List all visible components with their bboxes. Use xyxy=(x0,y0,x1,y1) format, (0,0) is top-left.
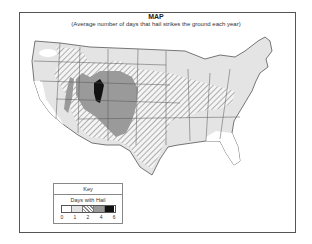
swatch-0-days xyxy=(62,206,73,212)
swatch-1-day xyxy=(72,206,83,212)
swatch-4-days xyxy=(94,206,105,212)
legend-subtitle: Days with Hail xyxy=(54,197,122,203)
tick-label: 1 xyxy=(74,214,77,220)
tick-label: 6 xyxy=(113,214,116,220)
swatch-6-days xyxy=(105,206,115,212)
tick-label: 0 xyxy=(61,214,64,220)
swatch-2-days xyxy=(83,206,94,212)
map-title: MAP xyxy=(0,13,312,20)
us-hail-map xyxy=(20,29,292,189)
legend-swatches xyxy=(61,205,116,213)
legend-title: Key xyxy=(54,184,122,195)
tick-label: 4 xyxy=(100,214,103,220)
legend-key: Key Days with Hail 0 1 2 4 6 xyxy=(53,183,123,224)
legend-ticks: 0 1 2 4 6 xyxy=(61,214,116,220)
tick-label: 2 xyxy=(87,214,90,220)
map-subtitle: (Average number of days that hail strike… xyxy=(0,21,312,27)
